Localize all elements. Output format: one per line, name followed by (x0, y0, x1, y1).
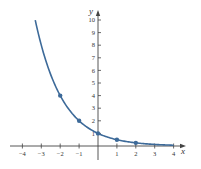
y-tick-label: 4 (92, 92, 96, 99)
x-tick-label: 3 (153, 150, 156, 157)
x-tick-label: 1 (115, 150, 118, 157)
x-tick-label: −2 (57, 150, 64, 157)
y-tick-label: 8 (92, 41, 95, 48)
x-tick-label: −4 (19, 150, 27, 157)
x-tick-label: −3 (38, 150, 45, 157)
data-point (58, 93, 62, 97)
y-axis-arrow-icon (96, 10, 100, 16)
y-tick-label: 5 (92, 79, 95, 86)
data-point (77, 119, 81, 123)
x-axis-label: x (180, 146, 185, 156)
y-tick-label: 6 (92, 67, 96, 74)
x-tick-label: −1 (76, 150, 83, 157)
data-point (115, 138, 119, 142)
x-tick-label: 4 (172, 150, 176, 157)
y-tick-label: 10 (89, 16, 96, 23)
y-tick-label: 3 (92, 104, 95, 111)
exponential-chart: −4−3−2−1123412345678910 x y (0, 0, 201, 169)
ticks: −4−3−2−1123412345678910 (19, 16, 176, 157)
y-tick-label: 9 (92, 29, 95, 36)
y-axis-label: y (88, 6, 93, 16)
function-curve (35, 20, 173, 145)
data-point (96, 131, 100, 135)
y-tick-label: 7 (92, 54, 96, 61)
x-tick-label: 2 (134, 150, 137, 157)
y-tick-label: 2 (92, 117, 95, 124)
data-point (134, 141, 138, 145)
